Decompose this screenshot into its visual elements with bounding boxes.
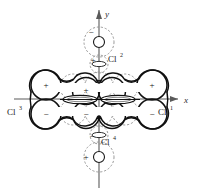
ligand-label-cl3: Cl 3 — [7, 105, 22, 117]
ligand-core-cl4 — [94, 152, 105, 163]
sign-lobe-upper-left: + — [43, 80, 48, 90]
y-axis-arrowhead — [96, 10, 102, 19]
sign-ligand-top-lower: + — [90, 55, 95, 65]
sign-ligand-bot-lower: + — [83, 152, 88, 162]
ligand-label-cl4-superscript: 4 — [113, 135, 116, 141]
ligand-label-cl1-superscript: 1 — [170, 105, 173, 111]
y-axis-label: y — [104, 9, 109, 19]
ligand-label-cl2-superscript: 2 — [120, 52, 123, 58]
silhouette-cap-left — [30, 92, 31, 107]
ligand-label-cl1-text: Cl — [158, 107, 167, 117]
silhouette-cap-right — [167, 92, 168, 107]
ligand-label-cl3-superscript: 3 — [19, 105, 22, 111]
sign-ligand-top-upper: − — [88, 27, 93, 37]
sign-lobe-upper-right: + — [149, 80, 154, 90]
sign-ligand-bot-upper: − — [89, 131, 94, 141]
x-axis-label: x — [183, 95, 188, 105]
sign-lobe-lower-left: − — [43, 109, 48, 119]
ligand-label-cl4: Cl 4 — [101, 135, 116, 147]
ligand-label-cl2-text: Cl — [108, 54, 117, 64]
sign-lobe-lower-right: − — [149, 109, 154, 119]
mask-lower-band — [34, 107, 164, 116]
orbital-diagram: + + − − + − − + − + Cl 1 Cl 2 Cl 3 Cl 4 — [0, 0, 198, 196]
x-axis-arrowhead — [170, 96, 178, 102]
ligand-label-cl3-text: Cl — [7, 107, 16, 117]
ligand-label-cl4-text: Cl — [101, 137, 110, 147]
ligand-label-cl2: Cl 2 — [108, 52, 123, 64]
ligand-core-cl2 — [94, 37, 105, 48]
sign-center-upper: + — [83, 85, 88, 95]
sign-center-lower: − — [83, 109, 88, 119]
mask-upper-band — [34, 83, 164, 92]
ligand-label-cl1: Cl 1 — [158, 105, 173, 117]
